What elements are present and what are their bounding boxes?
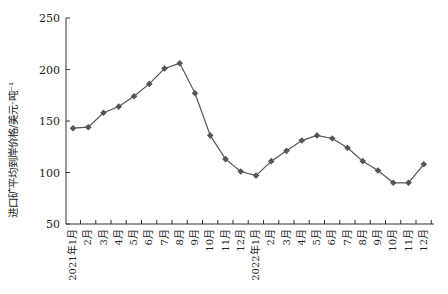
x-tick-label: 9月	[372, 229, 383, 245]
y-tick-label: 250	[39, 12, 60, 25]
y-tick-label: 50	[46, 218, 60, 231]
x-tick-label: 5月	[311, 229, 322, 245]
x-tick-label: 6月	[326, 229, 337, 245]
data-point-marker	[192, 90, 199, 97]
y-axis-label: 进口矿平均到岸价格/美元·吨⁻¹	[2, 60, 22, 240]
data-point-marker	[298, 137, 305, 144]
x-tick-label: 2021年1月	[66, 229, 78, 281]
x-tick-label: 2022年1月	[249, 229, 261, 281]
y-tick-label: 150	[39, 115, 60, 128]
data-point-marker	[329, 135, 336, 142]
x-tick-label: 12月	[235, 229, 246, 252]
y-tick-label: 200	[39, 64, 60, 77]
data-point-marker	[176, 60, 183, 67]
data-point-marker	[207, 132, 214, 139]
y-axis-label-text: 进口矿平均到岸价格/美元·吨⁻¹	[5, 82, 20, 219]
data-point-marker	[314, 132, 321, 139]
data-point-marker	[115, 103, 122, 110]
line-chart: 501001502002502021年1月2月3月4月5月6月7月8月9月10月…	[0, 0, 448, 294]
chart-canvas: 501001502002502021年1月2月3月4月5月6月7月8月9月10月…	[0, 0, 448, 294]
x-tick-label: 9月	[189, 229, 200, 245]
x-tick-label: 2月	[265, 229, 276, 245]
x-tick-label: 10月	[204, 229, 215, 252]
x-tick-label: 8月	[357, 229, 368, 245]
x-tick-label: 7月	[159, 229, 170, 245]
x-tick-label: 4月	[113, 229, 124, 245]
x-tick-label: 4月	[296, 229, 307, 245]
x-tick-label: 11月	[403, 229, 414, 252]
data-point-marker	[70, 125, 77, 132]
x-tick-label: 3月	[281, 229, 292, 245]
x-tick-label: 5月	[128, 229, 139, 245]
x-tick-label: 3月	[98, 229, 109, 245]
x-tick-label: 7月	[342, 229, 353, 245]
x-tick-label: 11月	[220, 229, 231, 252]
x-tick-label: 8月	[174, 229, 185, 245]
x-tick-label: 12月	[418, 229, 429, 252]
data-line	[73, 63, 424, 182]
x-tick-label: 6月	[143, 229, 154, 245]
y-tick-label: 100	[39, 167, 60, 180]
x-tick-label: 2月	[82, 229, 93, 245]
data-point-marker	[283, 148, 290, 155]
x-tick-label: 10月	[387, 229, 398, 252]
